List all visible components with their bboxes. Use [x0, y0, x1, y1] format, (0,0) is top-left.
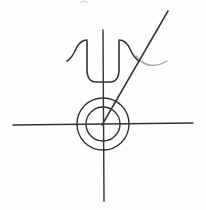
sketch-drawing: [0, 0, 206, 210]
psi-right-horn: [119, 40, 139, 61]
faint-top-mark: [80, 1, 88, 3]
vertical-axis: [103, 30, 104, 201]
sketch-canvas: [0, 0, 206, 210]
psi-left-horn: [67, 40, 87, 61]
diagonal-ray: [102, 11, 168, 125]
